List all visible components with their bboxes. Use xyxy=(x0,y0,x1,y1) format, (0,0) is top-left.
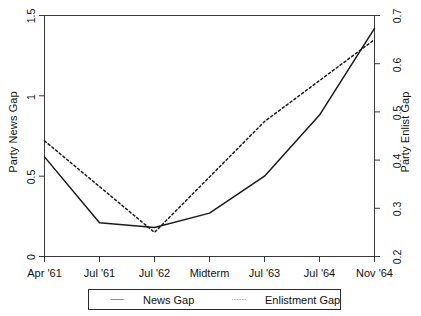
left-axis-ticks xyxy=(39,16,45,257)
left-tick-label-1: 1 xyxy=(25,82,37,112)
right-axis-ticks xyxy=(375,16,381,257)
left-tick-label-1-5: 1.5 xyxy=(25,1,37,31)
plot-frame xyxy=(45,16,375,257)
right-tick-label-0-6: 0.6 xyxy=(391,50,403,80)
legend-label-news-gap: News Gap xyxy=(143,294,194,306)
x-axis-ticks xyxy=(45,257,375,263)
legend-swatch-solid-icon xyxy=(97,299,137,300)
right-tick-label-0-3: 0.3 xyxy=(391,194,403,224)
left-tick-label-0-5: 0.5 xyxy=(25,162,37,192)
legend-item-news-gap: News Gap xyxy=(97,290,194,309)
chart-figure: Party News Gap Party Enlist Gap 0 0.5 1 … xyxy=(0,0,421,316)
legend-swatch-dotted-icon xyxy=(219,299,259,300)
right-tick-label-0-4: 0.4 xyxy=(391,146,403,176)
legend-item-enlistment-gap: Enlistment Gap xyxy=(219,290,340,309)
right-tick-label-0-7: 0.7 xyxy=(391,1,403,31)
x-tick-label-nov-64: Nov '64 xyxy=(340,267,410,279)
chart-legend: News Gap Enlistment Gap xyxy=(88,289,341,310)
left-axis-title: Party News Gap xyxy=(7,82,19,182)
legend-label-enlistment-gap: Enlistment Gap xyxy=(265,294,340,306)
right-tick-label-0-5: 0.5 xyxy=(391,98,403,128)
